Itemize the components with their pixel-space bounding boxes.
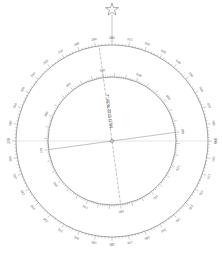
ring-label: 340 (74, 41, 81, 47)
ring-label: 250 (12, 173, 18, 180)
ring-label: 130 (188, 204, 195, 211)
ring-label: 210 (82, 204, 89, 210)
ring-label: 270 (39, 147, 44, 153)
ring-label: 060 (165, 94, 172, 101)
ring-label: 210 (57, 227, 64, 233)
ring-label: 300 (20, 86, 26, 93)
ring-label: 120 (198, 189, 204, 196)
ring-label: 280 (8, 120, 13, 126)
ring-label: 110 (206, 173, 212, 179)
ring-label: 310 (30, 71, 37, 78)
ring-label: 080 (211, 120, 216, 126)
ring-label: 330 (65, 81, 72, 88)
ring-label: 150 (152, 194, 159, 201)
ring-label: 260 (8, 156, 13, 162)
ring-label: 020 (144, 41, 151, 47)
ring-label: 010 (127, 37, 133, 42)
ring-label: 140 (175, 217, 182, 224)
ring-label: 170 (127, 240, 133, 245)
ring-label: 030 (136, 72, 143, 78)
ring-label: 040 (175, 59, 182, 66)
ring-label: 180 (118, 209, 124, 214)
ring-label: 300 (43, 111, 49, 118)
ring-label: 290 (12, 102, 18, 109)
ring-label: 240 (19, 189, 25, 196)
ring-label: 180 (109, 242, 115, 246)
ring-label: 240 (52, 181, 59, 188)
ring-label: 030 (160, 49, 167, 55)
ring-label: 090 (180, 128, 185, 134)
declination-label: 7° 45'W 2015 (1'W) (105, 94, 115, 129)
ring-label: 090 (213, 138, 217, 144)
ring-label: 270 (7, 138, 11, 144)
ring-label: 160 (144, 235, 151, 241)
ring-label: 060 (198, 86, 204, 93)
ring-label: 000 (109, 36, 115, 40)
ring-label: 050 (188, 71, 195, 78)
ring-label: 330 (57, 48, 64, 54)
ring-label: 190 (91, 240, 97, 245)
ring-label: 150 (160, 227, 167, 233)
ring-label: 070 (206, 103, 212, 110)
ring-label: 100 (211, 156, 216, 162)
ring-label: 350 (91, 37, 97, 42)
ring-label: 220 (42, 217, 49, 224)
ring-label: 320 (42, 59, 49, 66)
compass-rose-diagram: 0000100200300400500600700800901001101201… (0, 0, 222, 257)
ring-label: 120 (175, 165, 181, 172)
ring-label: 200 (73, 235, 80, 241)
ring-label: 230 (30, 204, 37, 211)
